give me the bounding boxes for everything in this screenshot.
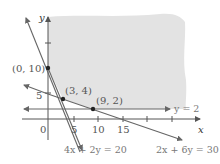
y-tick-5: 5 xyxy=(36,90,42,101)
point-9-2 xyxy=(91,107,95,111)
point-label-0-10: (0, 10) xyxy=(12,63,45,74)
x-tick-5: 5 xyxy=(71,124,77,135)
point-label-9-2: (9, 2) xyxy=(96,95,123,106)
point-3-4 xyxy=(61,97,65,101)
x-tick-15: 15 xyxy=(117,124,130,135)
equation-label-y-2: y = 2 xyxy=(173,103,199,114)
point-label-3-4: (3, 4) xyxy=(65,85,92,96)
equation-label-4x-2y-20: 4x + 2y = 20 xyxy=(64,144,127,155)
x-tick-10: 10 xyxy=(92,124,105,135)
origin-label: 0 xyxy=(40,124,46,135)
equation-label-2x-6y-30: 2x + 6y = 30 xyxy=(156,144,219,155)
y-axis-label: y xyxy=(38,12,45,23)
lp-graph: y x 0 5 10 15 5 (0, 10) (3, 4) (9, 2) 4x… xyxy=(0,0,220,164)
x-axis-label: x xyxy=(198,124,204,135)
point-0-10 xyxy=(46,66,50,70)
